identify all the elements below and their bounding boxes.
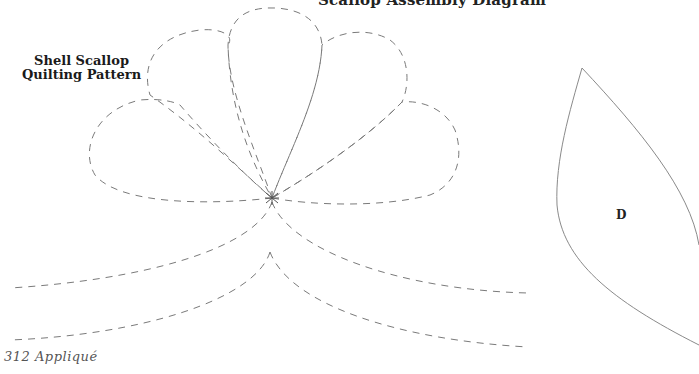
lower-arc-lower-right xyxy=(270,252,528,347)
shell-scallop-quilting-pattern xyxy=(0,0,699,374)
scallop-petal-center xyxy=(228,8,322,198)
lower-arc-lower-left xyxy=(10,252,270,340)
center-star-icon xyxy=(265,191,279,205)
page-footer: 312 Appliqué xyxy=(4,349,98,364)
lower-arc-upper-right xyxy=(272,202,528,293)
lower-arc-upper-left xyxy=(10,202,272,288)
scallop-petal-4 xyxy=(272,32,407,198)
scallop-petal-2 xyxy=(147,30,272,198)
template-piece-label: D xyxy=(616,208,626,222)
template-piece-d-outline xyxy=(557,68,699,345)
scallop-petal-5 xyxy=(272,102,459,204)
scallop-petal-1 xyxy=(89,99,272,201)
